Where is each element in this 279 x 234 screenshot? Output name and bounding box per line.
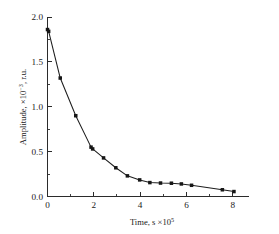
axis-ticks xyxy=(48,17,233,197)
x-tick-label: 8 xyxy=(230,200,235,210)
data-point xyxy=(74,114,78,118)
data-point xyxy=(114,166,118,170)
x-tick-label: 4 xyxy=(138,200,143,210)
data-point xyxy=(190,184,194,188)
data-markers xyxy=(46,28,236,194)
data-line xyxy=(48,30,234,192)
data-point xyxy=(232,190,236,194)
data-point xyxy=(91,147,95,151)
data-point xyxy=(221,188,225,192)
data-point xyxy=(126,174,130,178)
y-tick-label: 1.5 xyxy=(32,57,44,67)
chart-figure: 024680.00.51.01.52.0 Time, s ×105 Amplit… xyxy=(0,0,279,234)
y-tick-label: 1.0 xyxy=(32,102,44,112)
y-tick-label: 0.0 xyxy=(32,192,44,202)
x-axis-title: Time, s ×105 xyxy=(130,216,174,227)
data-point xyxy=(138,178,142,182)
plot-axes xyxy=(48,17,250,197)
x-tick-label: 6 xyxy=(184,200,189,210)
data-point xyxy=(102,156,106,160)
y-axis-title: Amplitude, ×10−3, r.u. xyxy=(17,69,28,145)
y-tick-label: 2.0 xyxy=(32,12,44,22)
x-tick-label: 0 xyxy=(45,200,50,210)
data-point xyxy=(47,30,51,34)
data-point xyxy=(170,181,174,185)
data-point xyxy=(58,76,62,80)
data-point xyxy=(159,181,163,185)
data-point xyxy=(148,181,152,185)
axis-tick-labels: 024680.00.51.01.52.0 xyxy=(32,12,236,210)
data-point xyxy=(180,182,184,186)
decay-plot: 024680.00.51.01.52.0 Time, s ×105 Amplit… xyxy=(0,0,279,234)
y-tick-label: 0.5 xyxy=(32,147,44,157)
x-tick-label: 2 xyxy=(92,200,97,210)
data-series-group xyxy=(46,28,236,194)
